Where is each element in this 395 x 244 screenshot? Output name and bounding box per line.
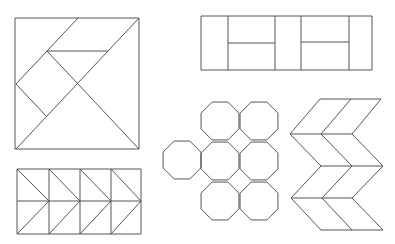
herringbone-line [352,99,381,134]
tangram-square-figure [15,18,139,149]
herringbone-line [352,198,383,230]
octagon-tiling-figure [163,102,278,220]
herringbone-line [290,134,321,166]
herringbone-line [352,166,383,198]
tangram-line [16,84,47,117]
herringbone-line [321,99,351,134]
octagon [240,142,278,180]
chevron-line [80,201,111,234]
octagon [163,141,201,179]
herringbone-line [290,99,320,134]
figure-canvas [0,0,395,244]
chevron-line [17,201,49,234]
octagon [201,102,239,140]
herringbone-figure [290,99,383,230]
chevron-line [111,169,141,201]
geometric-figures-diagram [0,0,395,244]
octagon [201,142,239,180]
brick-rectangle-figure [201,16,372,70]
octagon [201,182,239,220]
chevron-line [17,169,49,201]
chevron-rectangle-figure [17,169,141,234]
herringbone-line [352,134,383,166]
chevron-line [49,201,80,234]
herringbone-line [322,166,352,198]
tangram-line [47,51,139,149]
chevron-line [80,169,111,201]
herringbone-line [291,166,321,198]
octagon [240,102,278,140]
herringbone-line [322,198,352,230]
herringbone-line [321,134,352,166]
octagon [240,182,278,220]
chevron-line [49,169,80,201]
herringbone-line [291,198,321,230]
chevron-line [111,201,141,234]
